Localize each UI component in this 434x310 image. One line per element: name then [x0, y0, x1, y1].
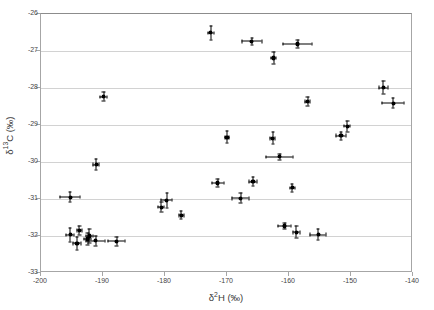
error-bar-cap-horizontal	[81, 242, 82, 246]
data-point	[76, 243, 77, 244]
data-points-layer	[41, 14, 411, 271]
error-bar-cap-vertical	[339, 131, 343, 132]
error-bar-cap-vertical	[209, 26, 213, 27]
error-bar-cap-vertical	[86, 244, 90, 245]
y-tick-label: -32	[4, 231, 38, 239]
error-bar-vertical	[217, 179, 218, 187]
x-tick-mark	[226, 272, 227, 276]
error-bar-cap-horizontal	[211, 181, 212, 185]
error-bar-horizontal	[231, 198, 248, 199]
error-bar-cap-vertical	[68, 202, 72, 203]
data-point	[347, 126, 348, 127]
error-bar-vertical	[161, 201, 162, 211]
error-bar-cap-horizontal	[104, 239, 105, 243]
error-bar-cap-vertical	[78, 225, 82, 226]
data-point	[273, 58, 274, 59]
error-bar-horizontal	[99, 96, 106, 97]
error-bar-cap-horizontal	[224, 135, 225, 139]
data-point	[393, 103, 394, 104]
error-bar-cap-vertical	[316, 239, 320, 240]
error-bar-cap-vertical	[306, 106, 310, 107]
error-bar-cap-vertical	[251, 186, 255, 187]
error-bar-vertical	[273, 52, 274, 63]
data-point	[227, 137, 228, 138]
y-axis-title: δ13C (‰)	[0, 76, 15, 196]
data-point-marker	[85, 237, 89, 241]
error-bar-cap-horizontal	[231, 196, 232, 200]
error-bar-cap-vertical	[75, 237, 79, 238]
error-bar-cap-horizontal	[275, 56, 276, 60]
data-point	[296, 232, 297, 233]
error-bar-horizontal	[76, 230, 81, 231]
error-bar-cap-vertical	[345, 131, 349, 132]
error-bar-horizontal	[66, 234, 73, 235]
error-bar-cap-vertical	[225, 143, 229, 144]
data-point-marker	[251, 180, 255, 184]
error-bar-vertical	[347, 120, 348, 131]
gridline-y	[41, 162, 411, 163]
error-bar-horizontal	[271, 58, 276, 59]
scatter-chart-figure: -26-27-28-29-30-31-32-33 -200-190-180-17…	[0, 0, 434, 310]
error-bar-cap-horizontal	[382, 101, 383, 105]
error-bar-cap-horizontal	[76, 229, 77, 233]
error-bar-horizontal	[161, 200, 172, 201]
data-point	[297, 43, 298, 44]
error-bar-cap-vertical	[115, 236, 119, 237]
error-bar-cap-horizontal	[183, 213, 184, 217]
data-point-marker	[271, 136, 275, 140]
error-bar-vertical	[116, 236, 117, 245]
x-tick-mark	[412, 272, 413, 276]
data-point-marker	[68, 233, 72, 237]
error-bar-horizontal	[289, 187, 294, 188]
error-bar-cap-horizontal	[99, 163, 100, 167]
error-bar-cap-horizontal	[248, 180, 249, 184]
error-bar-cap-horizontal	[300, 231, 301, 235]
error-bar-cap-horizontal	[107, 95, 108, 99]
error-bar-cap-horizontal	[378, 86, 379, 90]
error-bar-cap-horizontal	[283, 42, 284, 46]
error-bar-cap-vertical	[179, 219, 183, 220]
error-bar-cap-vertical	[68, 227, 72, 228]
error-bar-horizontal	[310, 234, 326, 235]
error-bar-cap-vertical	[94, 159, 98, 160]
data-point	[70, 234, 71, 235]
error-bar-horizontal	[277, 226, 291, 227]
data-point	[284, 226, 285, 227]
error-bar-vertical	[210, 26, 211, 39]
error-bar-cap-horizontal	[294, 186, 295, 190]
error-bar-cap-horizontal	[257, 180, 258, 184]
data-point-marker	[216, 181, 220, 185]
error-bar-cap-horizontal	[93, 163, 94, 167]
error-bar-vertical	[103, 92, 104, 101]
error-bar-cap-vertical	[306, 97, 310, 98]
data-point	[79, 230, 80, 231]
error-bar-vertical	[95, 236, 96, 246]
data-point-marker	[77, 228, 81, 232]
x-tick-label: -150	[330, 277, 370, 285]
error-bar-horizontal	[270, 138, 275, 139]
data-point-marker	[306, 100, 310, 104]
error-bar-cap-vertical	[295, 238, 299, 239]
error-bar-cap-vertical	[316, 229, 320, 230]
error-bar-cap-vertical	[250, 38, 254, 39]
error-bar-cap-horizontal	[310, 233, 311, 237]
error-bar-cap-vertical	[345, 120, 349, 121]
error-bar-cap-horizontal	[66, 233, 67, 237]
error-bar-cap-horizontal	[81, 229, 82, 233]
error-bar-cap-horizontal	[346, 134, 347, 138]
error-bar-cap-vertical	[290, 191, 294, 192]
error-bar-cap-horizontal	[261, 40, 262, 44]
error-bar-cap-vertical	[278, 159, 282, 160]
data-point	[181, 215, 182, 216]
error-bar-cap-horizontal	[73, 233, 74, 237]
error-bar-cap-horizontal	[161, 198, 162, 202]
data-point	[161, 207, 162, 208]
error-bar-cap-vertical	[68, 241, 72, 242]
error-bar-cap-horizontal	[158, 205, 159, 209]
y-axis-title-superscript: 13	[2, 142, 9, 150]
data-point	[279, 156, 280, 157]
error-bar-horizontal	[266, 156, 293, 157]
error-bar-cap-horizontal	[72, 242, 73, 246]
error-bar-horizontal	[211, 183, 223, 184]
x-tick-label: -200	[20, 277, 60, 285]
